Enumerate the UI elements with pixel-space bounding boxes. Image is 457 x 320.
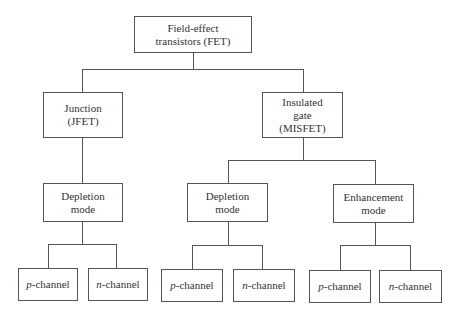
- leaf-jfet-n-channel: n-channel: [88, 268, 148, 301]
- connector: [228, 222, 229, 245]
- node-insulated-gate-misfet: Insulated gate (MISFET): [262, 92, 343, 138]
- connector: [410, 245, 411, 270]
- root-node-fet: Field-effect transistors (FET): [134, 16, 252, 53]
- leaf-misfet-depletion-n-channel: n-channel: [233, 269, 295, 302]
- connector: [340, 245, 410, 246]
- node-misfet-depletion-mode: Depletion mode: [187, 183, 268, 222]
- node-label: p-channel: [318, 280, 361, 293]
- connector: [48, 244, 49, 268]
- node-label: n-channel: [96, 278, 139, 291]
- connector: [228, 160, 375, 161]
- node-label: p-channel: [26, 278, 69, 291]
- node-label: p-channel: [170, 279, 213, 292]
- node-label: Depletion: [61, 190, 104, 203]
- connector: [262, 245, 263, 269]
- connector: [192, 245, 193, 269]
- node-label: n-channel: [389, 280, 432, 293]
- connector: [303, 137, 304, 160]
- node-label: Depletion: [206, 190, 249, 203]
- node-label: Field-effect: [167, 22, 218, 35]
- node-junction-jfet: Junction (JFET): [43, 92, 123, 138]
- node-misfet-enhancement-mode: Enhancement mode: [333, 184, 414, 223]
- connector: [375, 222, 376, 245]
- node-label: Enhancement: [344, 191, 404, 204]
- connector: [228, 160, 229, 183]
- leaf-misfet-depletion-p-channel: p-channel: [161, 269, 223, 302]
- node-label: mode: [71, 203, 95, 216]
- connector: [340, 245, 341, 270]
- node-jfet-depletion-mode: Depletion mode: [43, 183, 123, 222]
- leaf-misfet-enhancement-p-channel: p-channel: [309, 270, 371, 303]
- connector: [82, 221, 83, 244]
- node-label: (MISFET): [279, 122, 325, 135]
- leaf-misfet-enhancement-n-channel: n-channel: [379, 270, 442, 303]
- node-label: transistors (FET): [156, 35, 231, 48]
- connector: [193, 52, 194, 69]
- connector: [82, 69, 83, 92]
- leaf-jfet-p-channel: p-channel: [18, 268, 78, 301]
- connector: [116, 244, 117, 268]
- connector: [82, 69, 304, 70]
- node-label: mode: [361, 204, 385, 217]
- fet-classification-diagram: Field-effect transistors (FET) Junction …: [0, 0, 457, 320]
- node-label: gate: [293, 109, 311, 122]
- connector: [48, 244, 116, 245]
- node-label: (JFET): [67, 115, 98, 128]
- node-label: n-channel: [242, 279, 285, 292]
- node-label: Insulated: [282, 96, 322, 109]
- connector: [192, 245, 262, 246]
- connector: [375, 160, 376, 184]
- connector: [303, 69, 304, 92]
- connector: [82, 137, 83, 183]
- node-label: mode: [215, 203, 239, 216]
- node-label: Junction: [64, 102, 101, 115]
